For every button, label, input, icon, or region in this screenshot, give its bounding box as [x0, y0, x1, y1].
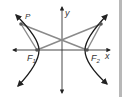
focus-f2-sub: 2 [96, 58, 101, 64]
focus-f1-sub: 1 [33, 58, 36, 64]
segment-pmirror-f1 [37, 24, 101, 50]
y-axis-label: y [64, 8, 70, 18]
focus-f1-label: F1 [27, 53, 36, 64]
point-p [19, 22, 23, 26]
point-p-mirror [99, 22, 103, 26]
focus-f2 [85, 48, 89, 52]
x-axis-label: x [104, 51, 110, 61]
focus-f1 [35, 48, 39, 52]
focus-f2-label: F2 [91, 53, 101, 64]
hyperbola-diagram: y x P F1 F2 [0, 0, 123, 97]
point-p-label: P [25, 12, 31, 21]
segment-p-f2 [21, 24, 87, 50]
right-edge-bar [119, 0, 122, 97]
